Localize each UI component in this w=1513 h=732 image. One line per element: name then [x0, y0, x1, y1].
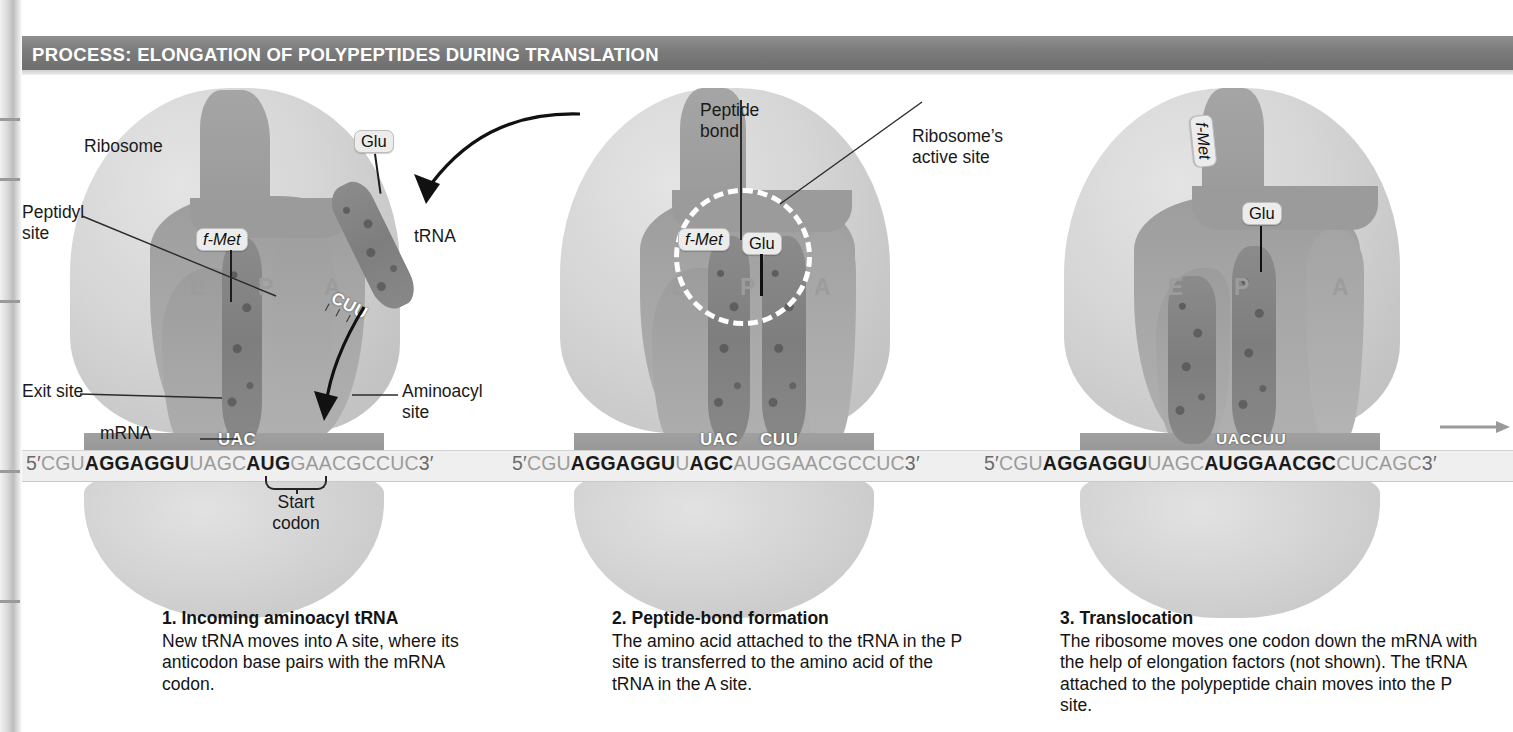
- mrna-seg-shine-dalgarno: AGGAGGU: [1043, 452, 1147, 474]
- exit-tunnel-mouth: [1192, 186, 1378, 230]
- mrna-seg-codons: AUGGAA: [1204, 452, 1292, 474]
- mrna-seg: CUCAGC: [1336, 452, 1422, 474]
- caption-title-3: 3. Translocation: [1060, 608, 1480, 630]
- mrna-seg-shine-dalgarno: AGGAGGU: [571, 452, 675, 474]
- aminoacyl-site-leader: [352, 390, 400, 400]
- mrna-seg-shine-dalgarno: AGGAGGU: [85, 452, 189, 474]
- trna-into-a-site-arrow: [302, 303, 392, 433]
- site-letter-p: P: [1234, 274, 1249, 301]
- caption-body-1: New tRNA moves into A site, where its an…: [162, 631, 459, 694]
- active-site-leader: [774, 100, 924, 210]
- caption-step-1: 1. Incoming aminoacyl tRNA New tRNA move…: [162, 608, 492, 695]
- label-peptide-bond: Peptide bond: [700, 100, 759, 142]
- page-title: PROCESS: ELONGATION OF POLYPEPTIDES DURI…: [32, 44, 659, 66]
- edge-tick: [0, 300, 20, 303]
- mrna-sequence-3: 5′CGUAGGAGGUUAGCAUGGAACGCCUCAGC3′: [984, 452, 1437, 475]
- three-prime-label: 3′: [905, 452, 920, 474]
- label-exit-site: Exit site: [22, 381, 83, 402]
- peptide-exit-tunnel: [200, 90, 270, 215]
- site-letter-e: E: [1168, 274, 1183, 301]
- edge-tick: [0, 178, 20, 181]
- label-mrna: mRNA: [100, 423, 152, 444]
- caption-body-3: The ribosome moves one codon down the mR…: [1060, 631, 1477, 716]
- panel-step-2: E P A f-Met Glu UAC CUU Peptide bond Rib…: [512, 78, 984, 678]
- process-label: PROCESS:: [32, 44, 132, 65]
- five-prime-label: 5′: [984, 452, 999, 474]
- exit-site-leader: [80, 388, 225, 402]
- mrna-seg: CGCCUC: [818, 452, 905, 474]
- process-title-text: ELONGATION OF POLYPEPTIDES DURING TRANSL…: [137, 44, 659, 65]
- caption-step-3: 3. Translocation The ribosome moves one …: [1060, 608, 1480, 717]
- mrna-sequence-1: 5′CGUAGGAGGUUAGCAUGGAACGCCUC3′: [26, 452, 434, 475]
- panel-step-1: E P A f-Met Glu UAC CUU: [22, 78, 512, 678]
- tag-f-met: f-Met: [678, 228, 730, 251]
- edge-tick: [0, 118, 20, 121]
- anticodon-uaccuu: UACCUU: [1216, 430, 1286, 448]
- label-aminoacyl-site: Aminoacyl site: [402, 381, 512, 423]
- mrna-seg-start-codon: AUG: [246, 452, 290, 474]
- ribosome-small-subunit: [1080, 473, 1380, 618]
- three-prime-label: 3′: [419, 452, 434, 474]
- caption-step-2: 2. Peptide-bond formation The amino acid…: [612, 608, 972, 695]
- mrna-seg: CGU: [527, 452, 571, 474]
- mrna-sequence-2: 5′CGUAGGAGGUUAGCAUGGAACGCCUC3′: [512, 452, 920, 475]
- edge-tick: [0, 470, 20, 473]
- start-codon-brace: [265, 476, 327, 490]
- tag-glu: Glu: [1242, 202, 1282, 225]
- peptidyl-site-leader: [80, 214, 280, 304]
- mrna-seg: UAGC: [189, 452, 246, 474]
- mrna-seg: U: [675, 452, 689, 474]
- right-arrow-icon: [1440, 421, 1510, 433]
- page-edge-artifact: [0, 0, 22, 732]
- tag-glu: Glu: [742, 232, 782, 255]
- edge-tick: [0, 600, 20, 603]
- mrna-seg: AGC: [689, 452, 733, 474]
- glu-leader: [1260, 226, 1262, 272]
- ribosome-diagram-3: E P A f-Met Glu UACCUU: [984, 78, 1513, 608]
- mrna-seg: CGU: [999, 452, 1043, 474]
- mrna-seg: UAGC: [1147, 452, 1204, 474]
- label-start-codon: Start codon: [254, 492, 338, 534]
- mrna-seg-next-codon: CGC: [1292, 452, 1336, 474]
- site-letter-a: A: [814, 274, 831, 301]
- ribosome-small-subunit: [84, 473, 384, 618]
- label-peptidyl-site: Peptidyl site: [22, 202, 84, 244]
- site-letter-a: A: [1332, 274, 1349, 301]
- five-prime-label: 5′: [512, 452, 527, 474]
- anticodon-cuu: CUU: [760, 430, 798, 450]
- caption-title-2: 2. Peptide-bond formation: [612, 608, 972, 630]
- caption-title-1: 1. Incoming aminoacyl tRNA: [162, 608, 492, 630]
- panel-step-3: E P A f-Met Glu UACCUU 5′CGUAGGAGGUUAGCA…: [984, 78, 1513, 678]
- trna-e-site: [1168, 276, 1216, 444]
- mrna-seg: GAACGCCUC: [290, 452, 419, 474]
- ribosome-small-subunit: [574, 473, 874, 618]
- five-prime-label: 5′: [26, 452, 41, 474]
- ribosome-a-site-cleft: [1306, 228, 1364, 438]
- label-ribosome: Ribosome: [84, 136, 163, 157]
- mrna-seg: CGU: [41, 452, 85, 474]
- mrna-seg: AUGG: [733, 452, 791, 474]
- caption-body-2: The amino acid attached to the tRNA in t…: [612, 631, 962, 694]
- label-trna: tRNA: [414, 226, 456, 247]
- header-underline: [22, 70, 1513, 75]
- three-prime-label: 3′: [1422, 452, 1437, 474]
- glu-leader: [760, 254, 763, 296]
- mrna-seg: AA: [792, 452, 818, 474]
- anticodon-uac: UAC: [700, 430, 738, 450]
